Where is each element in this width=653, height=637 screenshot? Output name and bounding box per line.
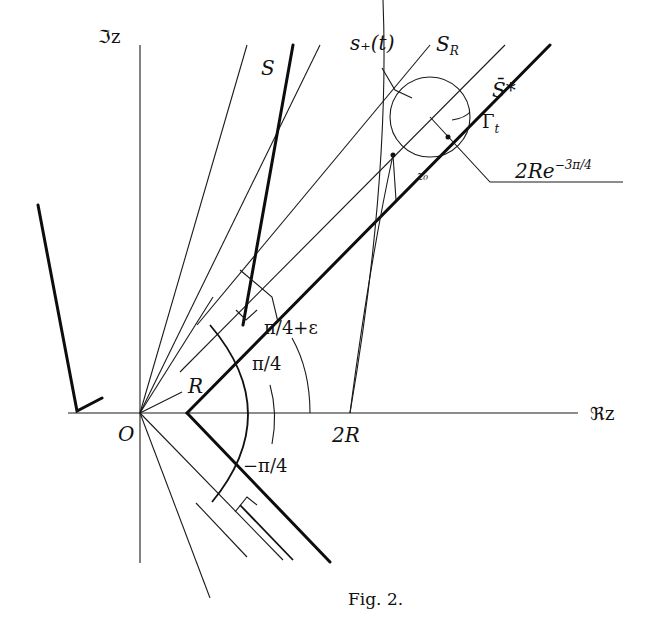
real-axis-label: ℜz [590,403,614,424]
origin-label: O [118,422,134,446]
r-label: R [187,374,203,398]
imag-axis-label: ℑz [98,26,120,47]
lower-line-1 [140,413,210,598]
angle-arc-pi4-eps [292,338,310,413]
angle-arc-small [270,385,275,444]
s-bar-star-label: S̄* [492,77,516,102]
gamma-t-label: Γt [482,111,500,136]
gamma-t-pointer [452,112,470,120]
two-r-label: 2R [331,423,360,447]
angle-pi4-eps-label: π/4+ε [264,317,318,338]
figure-diagram: ℑz ℜz O S s₊(t) SR S̄* Γt 2Re−3π/4 z₀ π/… [0,0,653,637]
angle-neg-pi4-label: −π/4 [243,455,287,476]
lower-line-2 [140,413,283,560]
strip-line-inner [180,45,505,372]
figure-caption: Fig. 2. [348,589,403,609]
radius-label: 2Re−3π/4 [514,158,592,183]
angle-pi4-label: π/4 [252,353,281,374]
s-plus-label: s₊(t) [350,31,394,55]
z0-label: z₀ [416,169,428,183]
curve-s-label: S [261,56,275,80]
s-r-label: SR [436,32,459,58]
l-shape-mark [38,205,102,411]
lower-line-3 [196,503,247,557]
right-angle-mark-lower [235,497,257,512]
tangent-point [446,135,451,140]
z0-drop-line [393,155,396,200]
wedge-lower-arm [187,413,330,562]
arc-large [350,0,384,413]
ray-upper-1 [140,45,320,413]
